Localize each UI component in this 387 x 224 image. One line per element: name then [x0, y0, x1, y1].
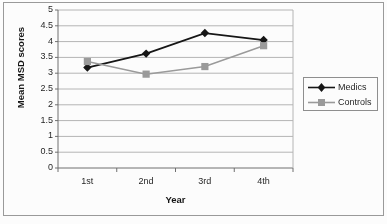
- y-tick-label: 4.5: [27, 21, 53, 30]
- data-point-controls-2nd: [143, 71, 150, 78]
- x-tick-label: 1st: [65, 176, 109, 186]
- y-tick-label: 5: [27, 5, 53, 14]
- diamond-marker-icon: [307, 80, 336, 95]
- x-tick-label: 4th: [242, 176, 286, 186]
- y-tick-label: 1: [27, 131, 53, 140]
- y-tick-label: 2.5: [27, 84, 53, 93]
- y-tick-label: 3.5: [27, 52, 53, 61]
- chart-legend: Medics Controls: [303, 77, 378, 111]
- legend-item-medics[interactable]: Medics: [304, 80, 377, 95]
- series-line-medics: [87, 33, 263, 67]
- data-point-medics-3rd: [201, 29, 209, 37]
- y-tick-label: 3: [27, 68, 53, 77]
- legend-label-controls: Controls: [338, 97, 372, 107]
- legend-label-medics: Medics: [338, 82, 367, 92]
- y-tick-label: 2: [27, 100, 53, 109]
- data-point-controls-1st: [84, 58, 91, 65]
- square-marker-icon: [307, 95, 336, 110]
- y-tick-label: 0.5: [27, 147, 53, 156]
- x-tick-marks-group: [58, 168, 293, 172]
- series-lines-group: [87, 33, 263, 74]
- data-point-controls-3rd: [201, 63, 208, 70]
- x-tick-label: 2nd: [124, 176, 168, 186]
- y-tick-label: 0: [27, 163, 53, 172]
- data-point-medics-2nd: [142, 49, 150, 57]
- gridlines-group: [58, 10, 293, 152]
- legend-item-controls[interactable]: Controls: [304, 95, 377, 110]
- chart-figure: 00.511.522.533.544.55 1st2nd3rd4th Mean …: [0, 0, 387, 224]
- series-line-controls: [87, 46, 263, 74]
- y-tick-label: 1.5: [27, 116, 53, 125]
- y-axis-title: Mean MSD scores: [15, 8, 26, 128]
- x-tick-label: 3rd: [183, 176, 227, 186]
- line-chart-plot: [0, 0, 387, 224]
- x-axis-title: Year: [58, 194, 293, 205]
- y-tick-label: 4: [27, 37, 53, 46]
- data-point-controls-4th: [260, 42, 267, 49]
